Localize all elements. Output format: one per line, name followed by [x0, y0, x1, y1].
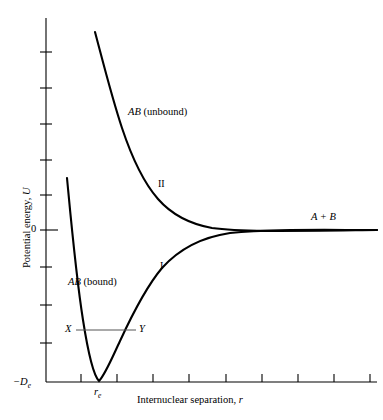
x-axis-title: Internuclear separation, r: [137, 395, 243, 406]
plot-canvas: [0, 0, 383, 420]
annotation-ab-bound: AB (bound): [68, 277, 117, 288]
annotation-ab-unbound: AB (unbound): [128, 107, 187, 118]
minus-de-subscript: e: [28, 381, 31, 390]
ab-unbound-rest: (unbound): [141, 106, 187, 117]
x-axis-ticks: [81, 374, 370, 382]
ab-unbound-italic: AB: [128, 106, 141, 117]
curve-label-one: I: [160, 261, 163, 271]
axis-lines: [46, 18, 377, 382]
curve-label-two: II: [158, 179, 165, 189]
ab-bound-rest: (bound): [81, 276, 117, 287]
annotation-dissociation-products: A + B: [311, 212, 336, 223]
minus-de-main: −D: [13, 376, 28, 387]
x-axis-title-symbol: r: [239, 394, 243, 405]
re-subscript: e: [98, 391, 101, 400]
y-axis-ticks: [40, 52, 58, 343]
y-axis-label-minus-de: −De: [13, 377, 31, 388]
y-tick-label-zero: 0: [31, 224, 36, 235]
level-label-x: X: [65, 324, 71, 335]
y-axis-title-symbol: U: [21, 188, 32, 196]
x-axis-title-text: Internuclear separation,: [137, 394, 236, 405]
x-axis-label-re: re: [94, 387, 101, 398]
curve-unbound-ab: [95, 32, 377, 231]
potential-energy-diagram: Potential energy, U 0 −De re Internuclea…: [0, 0, 383, 420]
level-label-y: Y: [139, 324, 145, 335]
ab-bound-italic: AB: [68, 276, 81, 287]
